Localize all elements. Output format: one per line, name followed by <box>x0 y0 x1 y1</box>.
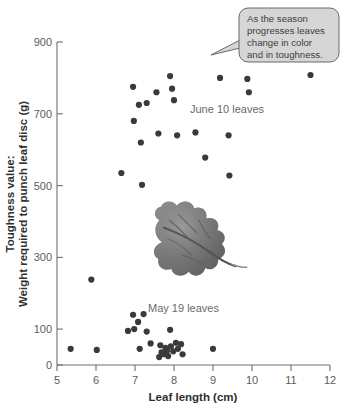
x-tick-9: 9 <box>210 374 216 386</box>
y-tick-500: 500 <box>34 180 52 192</box>
data-point <box>137 346 143 352</box>
data-point <box>148 340 154 346</box>
x-tick-11: 11 <box>285 374 296 386</box>
data-point <box>135 319 141 325</box>
data-point <box>167 327 173 333</box>
data-point <box>118 170 124 176</box>
data-point <box>169 86 175 92</box>
x-tick-7: 7 <box>132 374 138 386</box>
x-tick-6: 6 <box>93 374 99 386</box>
data-point <box>179 351 185 357</box>
y-axis-title-line2: Weight required to punch leaf disc (g) <box>17 101 29 307</box>
y-axis-tick-labels: 900 700 500 300 100 0 <box>34 36 52 371</box>
data-point <box>130 312 136 318</box>
x-tick-8: 8 <box>171 374 177 386</box>
data-point <box>165 353 171 359</box>
data-point <box>130 84 136 90</box>
data-point <box>202 154 208 160</box>
data-point <box>153 89 159 95</box>
data-point <box>226 172 232 178</box>
data-point <box>178 341 184 347</box>
callout-annotation: As the season progresses leaves change i… <box>211 8 339 62</box>
data-point <box>174 132 180 138</box>
data-point <box>125 328 131 334</box>
data-point <box>210 346 216 352</box>
callout-line-4: and in toughness. <box>247 49 323 60</box>
y-axis-ticks <box>57 42 63 365</box>
data-point <box>139 182 145 188</box>
data-point <box>226 132 232 138</box>
data-point <box>244 76 250 82</box>
x-tick-12: 12 <box>324 374 336 386</box>
x-axis-tick-labels: 5 6 7 8 9 10 11 12 <box>54 374 336 386</box>
series-label-may: May 19 leaves <box>148 302 219 314</box>
data-point <box>131 326 137 332</box>
data-point <box>68 346 74 352</box>
x-axis-ticks <box>57 365 330 371</box>
data-point <box>171 97 177 103</box>
data-point <box>217 75 223 81</box>
callout-line-1: As the season <box>247 13 308 24</box>
series-may-19-leaves <box>68 276 217 360</box>
data-point <box>192 129 198 135</box>
data-point <box>88 276 94 282</box>
y-axis-title-line1: Toughness value: <box>4 156 16 253</box>
data-point <box>136 102 142 108</box>
data-point <box>144 100 150 106</box>
callout-line-3: change in color <box>247 37 313 48</box>
y-tick-700: 700 <box>34 108 52 120</box>
leaf-toughness-scatter-figure: 900 700 500 300 100 0 5 6 7 8 9 10 11 <box>0 0 347 409</box>
y-tick-0: 0 <box>46 359 52 371</box>
data-point <box>131 118 137 124</box>
y-tick-300: 300 <box>34 251 52 263</box>
data-point <box>167 73 173 79</box>
scatter-plot-canvas: 900 700 500 300 100 0 5 6 7 8 9 10 11 <box>0 0 347 409</box>
y-tick-900: 900 <box>34 36 52 48</box>
data-point <box>140 311 146 317</box>
leaf-photo <box>154 201 247 275</box>
data-point <box>138 139 144 145</box>
data-point <box>94 347 100 353</box>
data-point <box>155 130 161 136</box>
x-tick-5: 5 <box>54 374 60 386</box>
data-point <box>144 329 150 335</box>
series-june-10-leaves <box>118 72 313 188</box>
x-tick-10: 10 <box>246 374 258 386</box>
data-point <box>246 89 252 95</box>
axis-lines <box>57 42 330 365</box>
y-tick-100: 100 <box>34 323 52 335</box>
callout-line-2: progresses leaves <box>247 25 325 36</box>
x-axis-title: Leaf length (cm) <box>149 391 238 403</box>
series-label-june: June 10 leaves <box>190 103 264 115</box>
data-point <box>307 72 313 78</box>
